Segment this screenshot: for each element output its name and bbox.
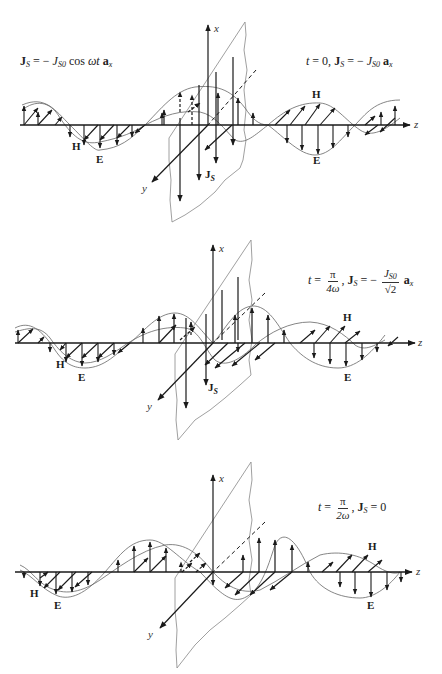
y-axis: [208, 70, 256, 125]
source-current-equation: JS = − JS0 cos ωt ax: [20, 55, 112, 69]
e-label-right: E: [313, 154, 320, 166]
wave-diagram: z x y H E: [0, 0, 442, 674]
z-axis-label: z: [413, 118, 419, 130]
right-field-vectors: [322, 555, 401, 597]
right-field-vectors: [275, 104, 395, 154]
y-axis-label: y: [141, 182, 147, 194]
h-label-left: H: [30, 587, 39, 599]
y-axis-label: y: [147, 628, 153, 640]
h-label-right: H: [312, 88, 321, 100]
js-label: JS: [208, 381, 219, 396]
e-label-right: E: [367, 599, 374, 611]
h-label-left: H: [56, 358, 65, 370]
js-label: JS: [205, 168, 216, 183]
left-field-vectors: [18, 328, 143, 366]
z-axis-label: z: [415, 565, 421, 577]
panel-t-pi-2omega: z x y H E: [15, 462, 421, 668]
x-axis-label: x: [218, 242, 224, 254]
h-label-right: H: [368, 540, 377, 552]
panel-t-pi-4omega-label: t = π4ω, JS = − JS0√2 ax: [308, 268, 413, 295]
y-axis-label: y: [146, 400, 152, 412]
panel-t0: z x y H E: [20, 22, 419, 222]
y-axis: [213, 293, 265, 343]
right-field-vectors: [300, 326, 398, 366]
e-label-left: E: [78, 371, 85, 383]
left-field-vectors: [24, 542, 166, 594]
e-label-left: E: [96, 153, 103, 165]
x-axis-label: x: [213, 22, 219, 34]
panel-t0-label: t = 0, JS = − JS0 ax: [306, 55, 393, 69]
e-label-right: E: [344, 371, 351, 383]
h-label-right: H: [343, 311, 352, 323]
y-axis: [213, 522, 265, 572]
e-label-left: E: [54, 599, 61, 611]
z-axis-label: z: [417, 336, 423, 348]
h-label-left: H: [72, 140, 81, 152]
panel-t-pi-2omega-label: t = π2ω, JS = 0: [318, 496, 386, 521]
x-axis-label: x: [218, 472, 224, 484]
